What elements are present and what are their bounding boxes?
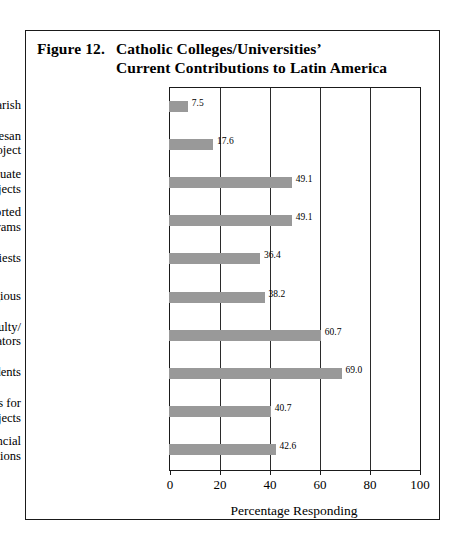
category-label: Adopt a Diocese/Parish bbox=[0, 98, 21, 113]
bar-value-label: 69.0 bbox=[342, 365, 363, 375]
bar-value-label: 36.4 bbox=[260, 250, 281, 260]
category-label: Sent Religious bbox=[0, 289, 21, 304]
category-label: Sent Priests bbox=[0, 251, 21, 266]
bar bbox=[169, 253, 260, 264]
bar bbox=[169, 139, 213, 150]
bar bbox=[169, 215, 292, 226]
bar bbox=[169, 330, 321, 341]
bar bbox=[169, 444, 276, 455]
x-axis-tick-label: 40 bbox=[264, 477, 277, 493]
gridline bbox=[320, 88, 321, 470]
bar-value-label: 17.6 bbox=[213, 136, 234, 146]
x-axis-tick-label: 80 bbox=[364, 477, 377, 493]
x-axis-tick bbox=[220, 470, 221, 475]
bar-value-label: 42.6 bbox=[276, 441, 297, 451]
figure-frame: Figure 12. Catholic Colleges/Universitie… bbox=[25, 30, 440, 520]
bar-value-label: 40.7 bbox=[271, 403, 292, 413]
x-axis-tick-label: 0 bbox=[167, 477, 174, 493]
bar bbox=[169, 368, 342, 379]
x-axis-tick bbox=[170, 470, 171, 475]
x-axis-tick-label: 20 bbox=[214, 477, 227, 493]
category-label: Regularly Supported Programs bbox=[0, 205, 21, 234]
bar bbox=[169, 406, 271, 417]
bar-value-label: 7.5 bbox=[188, 98, 204, 108]
x-axis-tick-label: 60 bbox=[314, 477, 327, 493]
bar-value-label: 49.1 bbox=[292, 212, 313, 222]
category-label: Supported Diocesan Project bbox=[0, 129, 21, 158]
bar-value-label: 49.1 bbox=[292, 174, 313, 184]
category-label: Sent Faculty/ Administrators bbox=[0, 320, 21, 349]
category-label: Raised Funds for Service Projects bbox=[0, 396, 21, 425]
bar bbox=[169, 101, 188, 112]
x-axis-tick bbox=[270, 470, 271, 475]
category-label: Offered Graduate Projects bbox=[0, 167, 21, 196]
x-axis-tick bbox=[320, 470, 321, 475]
x-axis-tick bbox=[370, 470, 371, 475]
x-axis-tick-label: 100 bbox=[410, 477, 430, 493]
bar-value-label: 60.7 bbox=[321, 327, 342, 337]
bar-chart: 020406080100 Percentage Responding 7.5Ad… bbox=[26, 31, 439, 519]
gridline bbox=[370, 88, 371, 470]
category-label: Made Financial Contributions bbox=[0, 434, 21, 463]
category-label: Sent Students bbox=[0, 365, 21, 380]
bar bbox=[169, 292, 265, 303]
x-axis-title: Percentage Responding bbox=[169, 503, 419, 519]
x-axis-tick bbox=[420, 470, 421, 475]
bar-value-label: 38.2 bbox=[265, 289, 286, 299]
bar bbox=[169, 177, 292, 188]
